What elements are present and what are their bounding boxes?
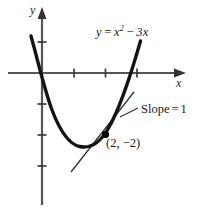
slope-equals: = xyxy=(169,102,180,116)
equation-term: 3x xyxy=(136,25,148,39)
equation-y: y xyxy=(96,25,102,39)
parabola-curve xyxy=(31,36,141,147)
x-axis-label: x xyxy=(176,76,181,91)
curve-equation-label: y=x2−3x xyxy=(96,24,148,40)
y-axis-label: y xyxy=(30,3,35,18)
equation-equals: = xyxy=(102,25,114,39)
slope-leader-line xyxy=(120,108,138,117)
y-axis-arrow-icon xyxy=(38,7,47,19)
slope-value: 1 xyxy=(181,102,187,116)
slope-text: Slope xyxy=(141,102,169,116)
equation-minus: − xyxy=(124,25,136,39)
point-coordinate-label: (2, −2) xyxy=(106,136,140,151)
slope-annotation-label: Slope=1 xyxy=(141,102,187,117)
tangent-line xyxy=(71,92,134,172)
